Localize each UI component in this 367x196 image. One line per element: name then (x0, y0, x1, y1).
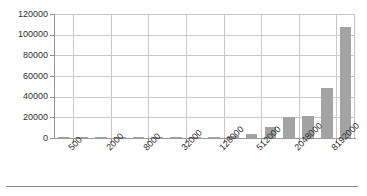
x-axis-tick-label: 512000 (255, 125, 283, 153)
x-axis-tick-label: 8000 (142, 132, 163, 153)
x-axis-tick-label: 500 (67, 135, 84, 152)
x-axis-tick-label: 32000 (180, 128, 204, 152)
bar-chart: 120000 100000 80000 60000 40000 20000 0 (0, 0, 367, 196)
x-axis-tick-label: 128000 (218, 125, 246, 153)
x-axis-labels: 5002000800032000128000512000204800081920… (0, 0, 367, 196)
x-axis-tick-label: 2000 (105, 132, 126, 153)
x-axis-tick-label: 8192000 (330, 121, 361, 152)
bottom-divider (6, 186, 358, 187)
x-axis-tick-label: 2048000 (293, 121, 324, 152)
